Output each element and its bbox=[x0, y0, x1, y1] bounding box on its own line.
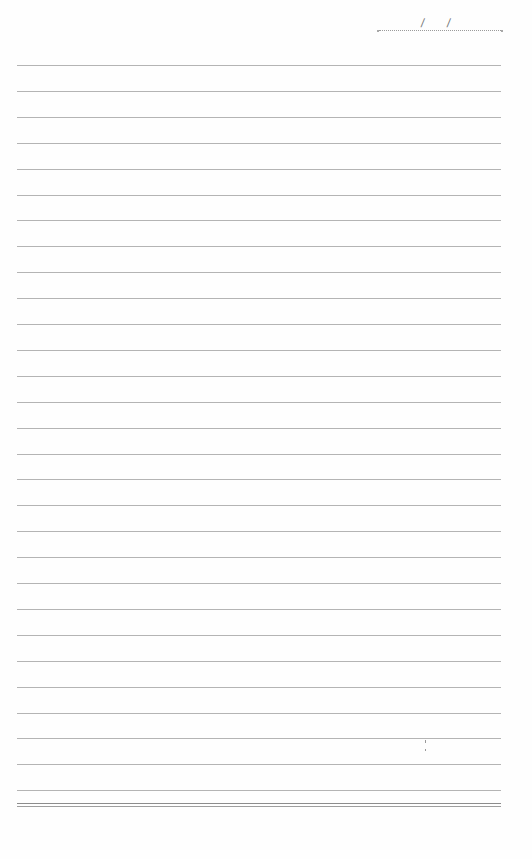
pencil-mark bbox=[425, 749, 426, 751]
ruled-line bbox=[17, 479, 501, 480]
date-underline-left-end bbox=[377, 30, 379, 32]
date-underline-right-end bbox=[501, 30, 503, 32]
ruled-line bbox=[17, 376, 501, 377]
ruled-line bbox=[17, 687, 501, 688]
bottom-rule-lower bbox=[17, 806, 501, 807]
ruled-line bbox=[17, 91, 501, 92]
ruled-line bbox=[17, 428, 501, 429]
date-separator-month: / bbox=[420, 17, 425, 29]
notebook-page: / / bbox=[0, 0, 532, 859]
ruled-line bbox=[17, 402, 501, 403]
ruled-line bbox=[17, 195, 501, 196]
ruled-line bbox=[17, 764, 501, 765]
date-separator-day: / bbox=[446, 17, 451, 29]
ruled-line bbox=[17, 220, 501, 221]
ruled-line bbox=[17, 713, 501, 714]
ruled-line bbox=[17, 661, 501, 662]
ruled-line bbox=[17, 738, 501, 739]
ruled-line bbox=[17, 609, 501, 610]
ruled-line bbox=[17, 350, 501, 351]
ruled-line bbox=[17, 531, 501, 532]
bottom-rule-upper bbox=[17, 803, 501, 804]
ruled-line bbox=[17, 117, 501, 118]
ruled-line bbox=[17, 505, 501, 506]
date-dotted-underline bbox=[379, 30, 501, 31]
ruled-line bbox=[17, 246, 501, 247]
date-field[interactable]: / / bbox=[379, 17, 501, 31]
ruled-line bbox=[17, 790, 501, 791]
ruled-line bbox=[17, 583, 501, 584]
ruled-line bbox=[17, 143, 501, 144]
ruled-line bbox=[17, 272, 501, 273]
ruled-line bbox=[17, 324, 501, 325]
ruled-line bbox=[17, 635, 501, 636]
ruled-line bbox=[17, 557, 501, 558]
ruled-line bbox=[17, 454, 501, 455]
pencil-mark bbox=[425, 740, 426, 743]
ruled-line bbox=[17, 65, 501, 66]
ruled-line bbox=[17, 298, 501, 299]
ruled-line bbox=[17, 169, 501, 170]
